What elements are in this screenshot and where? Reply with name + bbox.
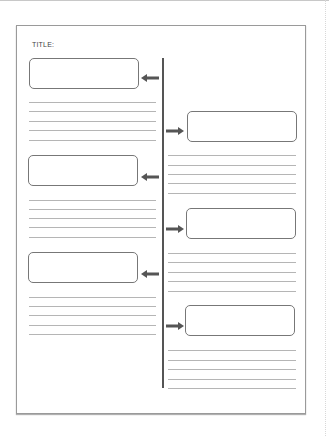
writing-line [168, 183, 296, 184]
writing-line [168, 253, 296, 254]
arrow-right-icon [166, 121, 184, 129]
writing-line [168, 193, 296, 194]
writing-line [168, 155, 296, 156]
writing-line [29, 121, 156, 122]
writing-line [168, 272, 296, 273]
event-box-left-3[interactable] [28, 252, 138, 283]
writing-line [29, 325, 156, 326]
writing-line [168, 350, 296, 351]
writing-line [29, 297, 156, 298]
arrow-left-icon [141, 264, 159, 272]
writing-line [168, 165, 296, 166]
writing-line [168, 281, 296, 282]
writing-line [29, 102, 156, 103]
writing-line [29, 218, 156, 219]
writing-line [168, 291, 296, 292]
event-box-right-3[interactable] [185, 305, 295, 336]
writing-line [168, 379, 296, 380]
writing-line [29, 315, 156, 316]
writing-line [29, 334, 156, 335]
writing-line [29, 130, 156, 131]
writing-line [29, 111, 156, 112]
writing-line [168, 360, 296, 361]
title-label: TITLE: [32, 41, 54, 48]
writing-line [29, 227, 156, 228]
scan-top-edge [0, 0, 329, 1]
scan-right-edge [325, 0, 327, 436]
writing-line [168, 388, 296, 389]
arrow-right-icon [166, 316, 184, 324]
writing-line [29, 209, 156, 210]
event-box-left-2[interactable] [28, 155, 138, 186]
event-box-right-1[interactable] [187, 111, 297, 142]
arrow-right-icon [166, 219, 184, 227]
writing-line [168, 174, 296, 175]
writing-line [29, 306, 156, 307]
writing-line [29, 200, 156, 201]
event-box-left-1[interactable] [29, 58, 139, 89]
writing-line [168, 369, 296, 370]
writing-line [168, 262, 296, 263]
arrow-left-icon [141, 167, 159, 175]
arrow-left-icon [141, 68, 159, 76]
event-box-right-2[interactable] [186, 208, 296, 239]
writing-line [29, 237, 156, 238]
timeline-spine [162, 58, 164, 388]
writing-line [29, 140, 156, 141]
